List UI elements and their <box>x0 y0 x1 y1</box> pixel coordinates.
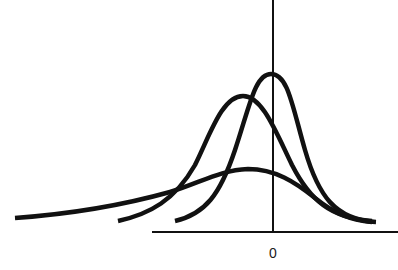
x-tick-label-zero: 0 <box>269 245 277 261</box>
distribution-diagram: 0 <box>0 0 398 270</box>
